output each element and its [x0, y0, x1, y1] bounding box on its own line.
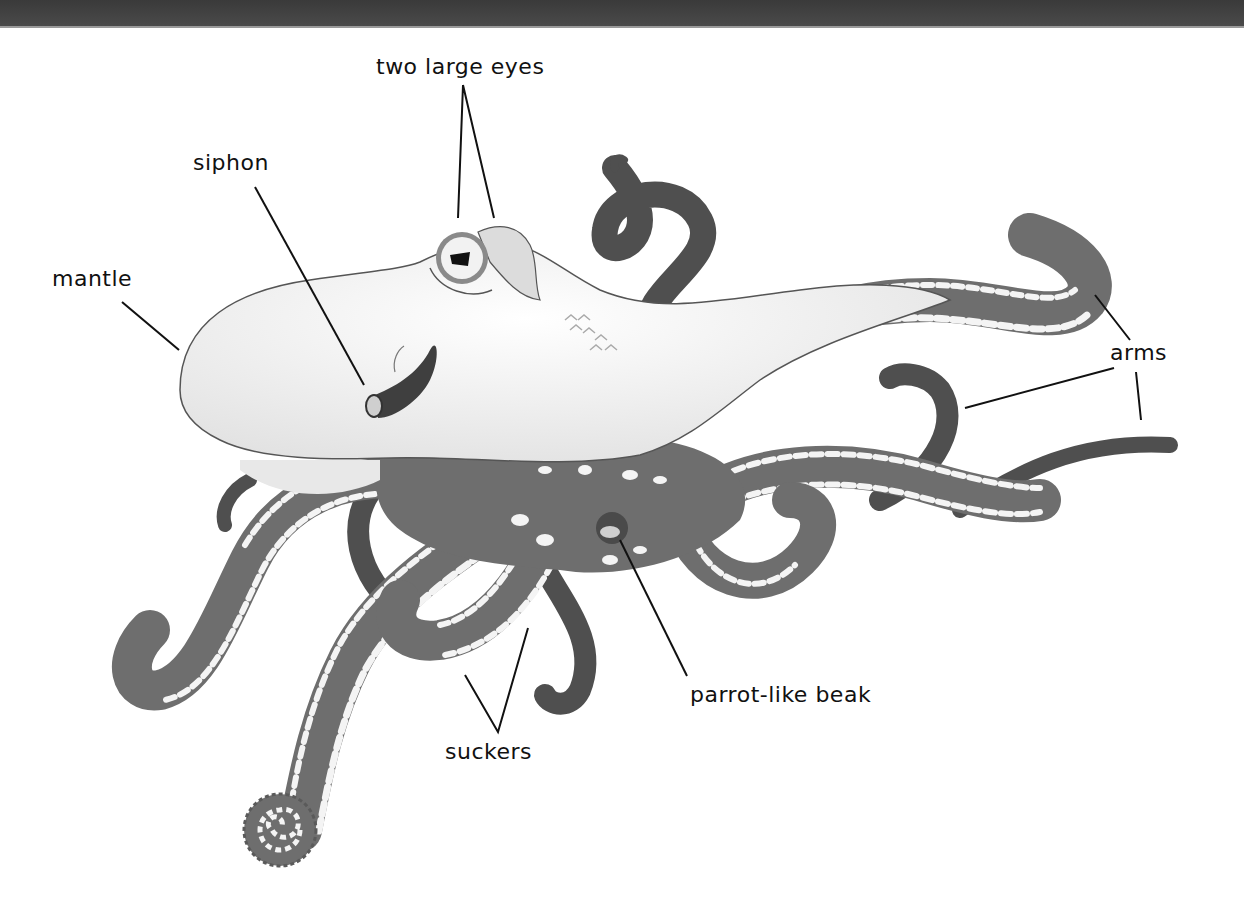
eyes-leader — [458, 85, 494, 218]
curled-arm-tip — [244, 794, 316, 866]
beak — [596, 512, 628, 544]
label-arms: arms — [1110, 340, 1167, 365]
label-mantle: mantle — [52, 266, 132, 291]
label-two-large-eyes: two large eyes — [376, 54, 544, 79]
octopus-illustration — [0, 0, 1244, 916]
mantle-leader — [122, 302, 179, 350]
label-suckers: suckers — [445, 739, 532, 764]
label-parrot-like-beak: parrot-like beak — [690, 682, 871, 707]
label-siphon: siphon — [193, 150, 269, 175]
mantle-body — [180, 242, 950, 462]
